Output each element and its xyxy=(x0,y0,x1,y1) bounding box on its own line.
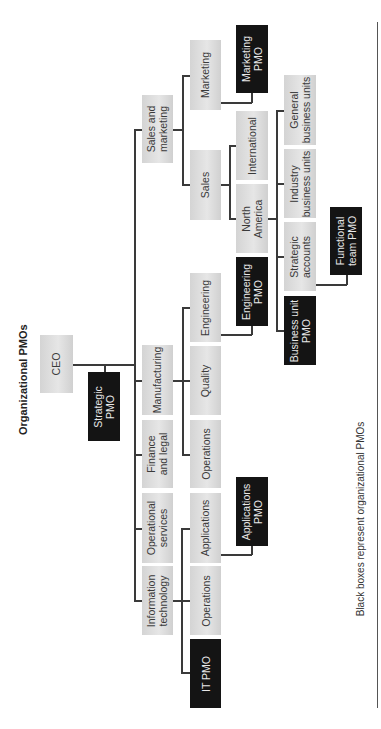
node-marketing-pmo: Marketing PMO xyxy=(236,25,268,93)
node-sales-and-marketing: Sales and marketing xyxy=(142,95,173,163)
connector xyxy=(221,334,252,336)
connector xyxy=(221,102,252,104)
node-manufacturing-operations: Operations xyxy=(190,420,221,488)
connector xyxy=(276,110,278,331)
node-information-technology: Information technology xyxy=(142,566,173,635)
node-label: Sales xyxy=(199,172,211,198)
node-engineering-pmo: Engineering PMO xyxy=(236,257,268,326)
node-label: Marketing PMO xyxy=(240,36,264,82)
node-label: Industry business units xyxy=(288,150,312,217)
node-label: Quality xyxy=(200,364,212,397)
connector xyxy=(134,129,136,601)
node-business-unit-pmo: Business unit PMO xyxy=(284,296,316,365)
divider-rule xyxy=(377,22,378,708)
connector xyxy=(181,528,190,530)
node-label: IT PMO xyxy=(200,656,212,692)
connector xyxy=(182,454,190,456)
node-label: International xyxy=(246,117,258,175)
connector xyxy=(181,600,190,602)
node-industry-business-units: Industry business units xyxy=(284,149,316,218)
node-label: Strategic PMO xyxy=(92,386,116,427)
node-label: Applications xyxy=(200,500,212,557)
node-general-business-units: General business units xyxy=(284,75,316,145)
node-strategic-pmo: Strategic PMO xyxy=(88,372,120,441)
connector xyxy=(134,129,142,131)
node-label: Operations xyxy=(200,428,212,479)
chart-title: Organizational PMOs xyxy=(17,335,31,435)
node-label: Operational services xyxy=(146,501,170,555)
connector xyxy=(229,218,236,220)
node-label: Applications PMO xyxy=(240,483,264,540)
node-quality: Quality xyxy=(190,346,221,415)
node-finance-and-legal: Finance and legal xyxy=(142,420,173,488)
connector xyxy=(276,183,284,185)
node-it-pmo: IT PMO xyxy=(190,639,221,708)
node-label: Marketing xyxy=(200,52,212,98)
connector xyxy=(104,364,106,372)
node-engineering: Engineering xyxy=(190,273,221,342)
connector xyxy=(182,307,190,309)
node-functional-team-pmo: Functional team PMO xyxy=(330,207,362,275)
connector xyxy=(182,380,190,382)
node-label: Engineering xyxy=(200,279,212,335)
connector xyxy=(251,546,253,555)
connector xyxy=(182,75,184,185)
node-manufacturing: Manufacturing xyxy=(142,345,173,415)
node-strategic-accounts: Strategic accounts xyxy=(284,222,316,291)
node-label: Operations xyxy=(200,575,212,626)
connector xyxy=(251,93,253,103)
node-it-operations: Operations xyxy=(190,566,221,635)
node-label: General business units xyxy=(288,77,312,144)
connector xyxy=(221,554,252,556)
node-label: Finance and legal xyxy=(146,433,170,476)
node-international: International xyxy=(236,111,268,180)
connector xyxy=(134,528,142,530)
connector xyxy=(251,326,253,335)
node-label: Manufacturing xyxy=(152,347,164,414)
node-label: North America xyxy=(240,199,264,238)
connector xyxy=(182,75,190,77)
connector xyxy=(276,256,284,258)
node-label: Strategic accounts xyxy=(288,235,312,277)
node-label: Functional team PMO xyxy=(334,216,358,266)
node-label: Engineering PMO xyxy=(240,263,264,319)
connector xyxy=(276,110,284,112)
node-label: CEO xyxy=(50,353,62,376)
node-applications-pmo: Applications PMO xyxy=(236,477,268,546)
connector xyxy=(134,454,142,456)
connector xyxy=(173,129,182,131)
connector xyxy=(182,184,190,186)
connector xyxy=(134,600,142,602)
node-marketing: Marketing xyxy=(190,40,221,110)
connector xyxy=(134,380,142,382)
node-operational-services: Operational services xyxy=(142,493,173,563)
connector xyxy=(276,330,284,332)
connector xyxy=(316,284,347,286)
connector xyxy=(181,672,190,674)
node-ceo: CEO xyxy=(40,335,73,393)
node-label: Information technology xyxy=(146,574,170,627)
connector xyxy=(346,275,348,285)
connector xyxy=(229,145,236,147)
node-sales: Sales xyxy=(190,150,221,220)
connector xyxy=(173,380,182,382)
connector xyxy=(229,145,231,219)
node-label: Business unit PMO xyxy=(288,299,312,361)
node-applications: Applications xyxy=(190,493,221,563)
footnote: Black boxes represent organizational PMO… xyxy=(355,394,367,644)
node-label: Sales and marketing xyxy=(146,106,170,153)
node-north-america: North America xyxy=(236,184,268,253)
